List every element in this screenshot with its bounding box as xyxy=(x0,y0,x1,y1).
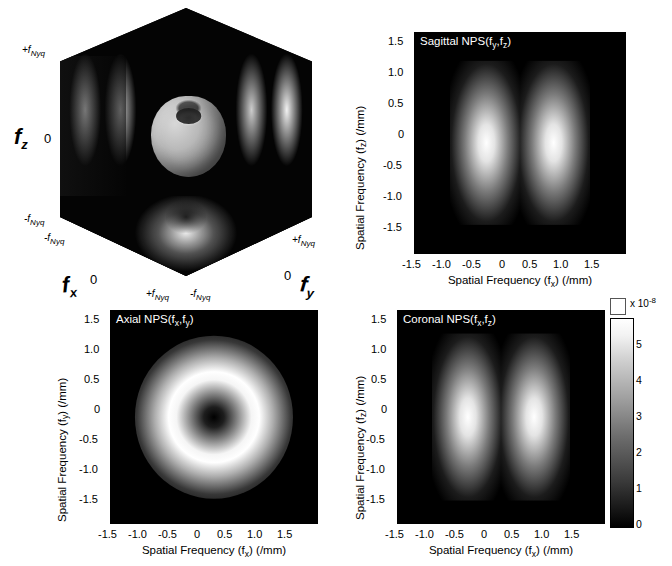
sagittal-ytick-5: -0.5 xyxy=(383,159,402,171)
axial-ytick-7: -1.5 xyxy=(79,493,98,505)
axial-xtick-6: 1.0 xyxy=(247,528,262,540)
cube-fz-tick-zero: 0 xyxy=(44,131,51,146)
cube-faces xyxy=(60,8,312,276)
coronal-xtick-6: 1.0 xyxy=(534,528,549,540)
coronal-ytick-4: 0 xyxy=(381,403,387,415)
coronal-nps-panel: Spatial Frequency (fz) (/mm) Coronal NPS… xyxy=(352,300,612,566)
axial-nps-image: Axial NPS(fx,fy) xyxy=(110,310,318,524)
cube-axis-label-fx: fx xyxy=(61,271,78,301)
axial-xtick-1: -1.5 xyxy=(98,528,117,540)
cube-fx-tick-zero: 0 xyxy=(90,272,97,287)
sagittal-xtick-6: 1.0 xyxy=(553,258,568,270)
colorbar-top-swatch xyxy=(610,298,626,315)
sagittal-xtick-4: 0 xyxy=(499,258,505,270)
sagittal-y-axis-label: Spatial Frequency (fz) (/mm) xyxy=(354,34,368,250)
coronal-ytick-3: 0.5 xyxy=(371,373,386,385)
cube-axis-label-fy: fy xyxy=(299,271,316,301)
sagittal-x-axis-label: Spatial Frequency (fx) (/mm) xyxy=(414,274,626,289)
colorbar-gradient xyxy=(610,318,634,528)
axial-nps-panel: Spatial Frequency (fy) (/mm) Axial NPS(f… xyxy=(40,300,370,566)
coronal-ytick-7: -1.5 xyxy=(366,493,385,505)
cube-box xyxy=(60,8,312,276)
sagittal-ytick-6: -1.0 xyxy=(383,190,402,202)
torus-hole xyxy=(176,108,202,124)
coronal-xtick-4: 0 xyxy=(481,528,487,540)
coronal-xtick-7: 1.5 xyxy=(564,528,579,540)
sagittal-xtick-1: -1.5 xyxy=(402,258,421,270)
coronal-lobe-right xyxy=(501,334,570,501)
axial-ytick-4: 0 xyxy=(94,403,100,415)
coronal-ytick-1: 1.5 xyxy=(371,313,386,325)
nps-isosurface-torus xyxy=(151,96,227,176)
colorbar-tick-1: 1 xyxy=(636,482,642,494)
axial-ytick-2: 1.0 xyxy=(84,343,99,355)
colorbar-tick-5: 5 xyxy=(636,338,642,350)
cube-fz-tick-minus-nyq: -fNyq xyxy=(24,213,44,227)
axial-xtick-3: -0.5 xyxy=(158,528,177,540)
axial-xtick-7: 1.5 xyxy=(277,528,292,540)
coronal-xtick-1: -1.5 xyxy=(385,528,404,540)
sagittal-lobe-left xyxy=(450,61,520,225)
coronal-x-axis-label: Spatial Frequency (fx) (/mm) xyxy=(397,544,605,559)
colorbar-tick-3: 3 xyxy=(636,410,642,422)
axial-xtick-5: 0.5 xyxy=(217,528,232,540)
coronal-ytick-5: -0.5 xyxy=(366,433,385,445)
sagittal-xtick-7: 1.5 xyxy=(584,258,599,270)
coronal-lobe-left xyxy=(432,334,501,501)
axial-xtick-4: 0 xyxy=(194,528,200,540)
sagittal-ytick-2: 1.0 xyxy=(388,66,403,78)
coronal-y-axis-label: Spatial Frequency (fz) (/mm) xyxy=(354,320,368,520)
sagittal-nps-image: Sagittal NPS(fy,fz) xyxy=(414,32,626,254)
coronal-xtick-3: -0.5 xyxy=(445,528,464,540)
colorbar-tick-4: 4 xyxy=(636,374,642,386)
colorbar-exponent-label: x 10-8 xyxy=(630,296,656,309)
cube-axis-label-fz: fz xyxy=(14,124,28,152)
sagittal-ytick-7: -1.5 xyxy=(383,221,402,233)
sagittal-nps-panel: Spatial Frequency (fz) (/mm) Sagittal NP… xyxy=(352,8,672,308)
axial-ytick-5: -0.5 xyxy=(79,433,98,445)
coronal-panel-title: Coronal NPS(fx,fz) xyxy=(403,313,496,328)
axial-ytick-6: -1.0 xyxy=(79,463,98,475)
cube-floor-dark-core xyxy=(166,201,206,233)
axial-ytick-3: 0.5 xyxy=(84,373,99,385)
sagittal-ytick-3: 0.5 xyxy=(388,97,403,109)
sagittal-xtick-2: -1.0 xyxy=(432,258,451,270)
axial-x-axis-label: Spatial Frequency (fx) (/mm) xyxy=(110,544,318,559)
coronal-ytick-6: -1.0 xyxy=(366,463,385,475)
cube-fy-tick-zero: 0 xyxy=(284,268,291,283)
sagittal-ytick-1: 1.5 xyxy=(388,35,403,47)
sagittal-xtick-5: 0.5 xyxy=(522,258,537,270)
axial-annular-ring xyxy=(135,336,293,499)
axial-y-axis-label: Spatial Frequency (fy) (/mm) xyxy=(56,326,70,522)
sagittal-lobe-right xyxy=(520,61,590,225)
axial-ytick-1: 1.5 xyxy=(84,313,99,325)
sagittal-xtick-3: -0.5 xyxy=(462,258,481,270)
colorbar-tick-0: 0 xyxy=(636,518,642,530)
nps-colorbar-panel: x 10-8 5 4 3 2 1 0 xyxy=(604,296,672,542)
coronal-nps-image: Coronal NPS(fx,fz) xyxy=(397,310,605,524)
colorbar-tick-2: 2 xyxy=(636,446,642,458)
cube-fz-tick-plus-nyq: +fNyq xyxy=(22,44,45,58)
coronal-xtick-2: -1.0 xyxy=(415,528,434,540)
coronal-ytick-2: 1.0 xyxy=(371,343,386,355)
coronal-xtick-5: 0.5 xyxy=(504,528,519,540)
sagittal-ytick-4: 0 xyxy=(398,128,404,140)
cube-fx-tick-minus-nyq: -fNyq xyxy=(44,232,64,246)
sagittal-panel-title: Sagittal NPS(fy,fz) xyxy=(420,35,511,50)
nps-3d-cube-panel: fz 0 +fNyq -fNyq fx 0 -fNyq +fNyq fy 0 -… xyxy=(0,0,352,310)
cube-fy-tick-plus-nyq: +fNyq xyxy=(292,234,315,248)
axial-xtick-2: -1.0 xyxy=(128,528,147,540)
axial-panel-title: Axial NPS(fx,fy) xyxy=(116,313,194,328)
figure-canvas: fz 0 +fNyq -fNyq fx 0 -fNyq +fNyq fy 0 -… xyxy=(0,0,672,566)
